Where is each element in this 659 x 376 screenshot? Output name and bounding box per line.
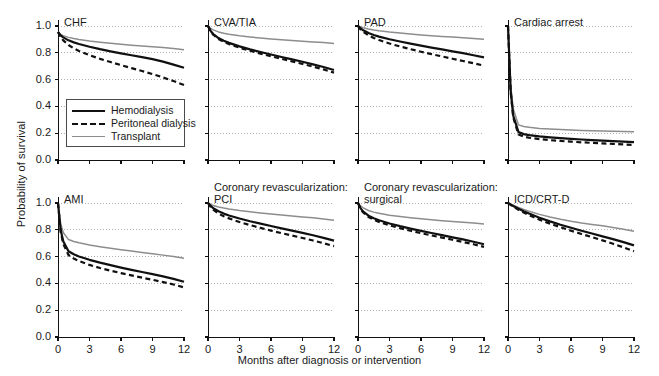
x-tick-label: 0 bbox=[350, 343, 366, 355]
series-line-hemodialysis bbox=[358, 203, 484, 244]
series-line-hemodialysis bbox=[208, 26, 334, 70]
y-tick-label: 0.4 bbox=[25, 276, 51, 288]
panel-title: AMI bbox=[64, 194, 84, 206]
y-tick-label: 1.0 bbox=[25, 19, 51, 31]
x-tick-label: 3 bbox=[532, 343, 548, 355]
x-tick-label: 6 bbox=[113, 343, 129, 355]
series-line-peritoneal-dialysis bbox=[58, 32, 184, 85]
y-tick-label: 0.8 bbox=[25, 46, 51, 58]
x-tick-label: 12 bbox=[176, 343, 192, 355]
legend-label: Peritoneal dialysis bbox=[111, 117, 196, 129]
legend-item: Hemodialysis bbox=[67, 103, 184, 116]
series-line-transplant bbox=[508, 26, 634, 132]
x-tick-label: 6 bbox=[413, 343, 429, 355]
series-line-transplant bbox=[58, 203, 184, 258]
panel-title: ICD/CRT-D bbox=[514, 194, 569, 206]
x-tick-label: 3 bbox=[382, 343, 398, 355]
x-tick-label: 9 bbox=[145, 343, 161, 355]
panel-title: CVA/TIA bbox=[214, 17, 256, 29]
series-line-hemodialysis bbox=[508, 203, 634, 245]
x-tick-label: 0 bbox=[50, 343, 66, 355]
y-tick-label: 0.2 bbox=[25, 303, 51, 315]
y-tick-label: 1.0 bbox=[25, 196, 51, 208]
x-tick-label: 0 bbox=[500, 343, 516, 355]
x-tick-label: 12 bbox=[326, 343, 342, 355]
x-tick-label: 3 bbox=[232, 343, 248, 355]
x-tick-label: 12 bbox=[626, 343, 642, 355]
legend-swatch-peritoneal-dialysis bbox=[72, 117, 105, 129]
legend-item: Peritoneal dialysis bbox=[67, 116, 184, 129]
legend-label: Transplant bbox=[111, 130, 160, 142]
x-tick-label: 12 bbox=[476, 343, 492, 355]
y-tick-label: 0.6 bbox=[25, 73, 51, 85]
legend-label: Hemodialysis bbox=[111, 104, 173, 116]
panel-title: Cardiac arrest bbox=[514, 17, 583, 29]
x-tick-label: 6 bbox=[563, 343, 579, 355]
x-tick-label: 9 bbox=[595, 343, 611, 355]
legend: HemodialysisPeritoneal dialysisTransplan… bbox=[66, 99, 185, 147]
x-tick-label: 9 bbox=[445, 343, 461, 355]
series-line-peritoneal-dialysis bbox=[58, 203, 184, 287]
series-line-transplant bbox=[58, 32, 184, 50]
y-tick-label: 0.6 bbox=[25, 250, 51, 262]
y-tick-label: 0.2 bbox=[25, 126, 51, 138]
y-tick-label: 0.4 bbox=[25, 99, 51, 111]
legend-item: Transplant bbox=[67, 129, 184, 142]
series-line-transplant bbox=[208, 203, 334, 220]
panel-title: Coronary revascularization:PCI bbox=[214, 182, 348, 205]
y-tick-label: 0.0 bbox=[25, 330, 51, 342]
x-tick-label: 6 bbox=[263, 343, 279, 355]
panel-title: Coronary revascularization:surgical bbox=[364, 182, 498, 205]
series-line-peritoneal-dialysis bbox=[208, 203, 334, 246]
legend-swatch-hemodialysis bbox=[72, 104, 105, 116]
survival-curves-figure: Probability of survival Months after dia… bbox=[0, 0, 659, 376]
panel-title: PAD bbox=[364, 17, 386, 29]
y-tick-label: 0.8 bbox=[25, 223, 51, 235]
y-tick-label: 0.0 bbox=[25, 153, 51, 165]
panel-title: CHF bbox=[64, 17, 87, 29]
series-line-transplant bbox=[208, 26, 334, 43]
series-line-hemodialysis bbox=[508, 26, 634, 142]
x-tick-label: 9 bbox=[295, 343, 311, 355]
legend-swatch-transplant bbox=[72, 130, 105, 142]
x-tick-label: 3 bbox=[82, 343, 98, 355]
x-tick-label: 0 bbox=[200, 343, 216, 355]
